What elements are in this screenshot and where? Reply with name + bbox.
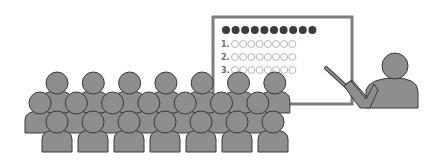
person-head: [226, 111, 248, 133]
filled-dot: [232, 26, 240, 34]
filled-dot: [251, 26, 259, 34]
board-row-label: 1.: [221, 40, 230, 49]
filled-dot: [222, 26, 230, 34]
person-head: [247, 92, 269, 114]
person-head: [228, 72, 250, 94]
filled-dot: [280, 26, 288, 34]
person-head: [46, 111, 68, 133]
classroom-illustration: 1.2.3.: [0, 0, 444, 161]
filled-dot: [289, 26, 297, 34]
person-head: [138, 92, 160, 114]
person-head: [154, 111, 176, 133]
filled-dot: [308, 26, 316, 34]
board-row-label: 3.: [221, 66, 230, 75]
filled-dot: [241, 26, 249, 34]
person-head: [262, 111, 284, 133]
person-head: [102, 92, 124, 114]
teacher-head: [382, 53, 408, 79]
person-head: [191, 72, 213, 94]
person-head: [119, 72, 141, 94]
person-head: [190, 111, 212, 133]
board-row-label: 2.: [221, 53, 230, 62]
person-head: [211, 92, 233, 114]
person-head: [65, 92, 87, 114]
person-head: [264, 72, 286, 94]
person-head: [118, 111, 140, 133]
person-head: [82, 72, 104, 94]
filled-dot: [299, 26, 307, 34]
person-head: [82, 111, 104, 133]
person-head: [46, 72, 68, 94]
person-head: [174, 92, 196, 114]
person-head: [29, 92, 51, 114]
filled-dot: [260, 26, 268, 34]
filled-dot: [270, 26, 278, 34]
person-head: [155, 72, 177, 94]
